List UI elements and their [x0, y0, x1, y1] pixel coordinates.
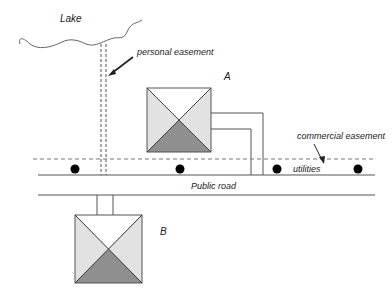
house-a [147, 88, 211, 152]
house-a-utility-connection [211, 113, 263, 175]
commercial-easement-label: commercial easement [297, 131, 386, 141]
public-road-label: Public road [191, 181, 237, 191]
lake-shoreline [20, 20, 142, 48]
lake-label: Lake [60, 13, 82, 24]
house-b-label: B [160, 226, 167, 237]
personal-easement-path [101, 44, 106, 175]
property-easement-diagram: Lake personal easement A commercial ease… [0, 0, 392, 298]
house-b [75, 215, 142, 283]
utilities-label: utilities [293, 164, 321, 174]
house-a-label: A [223, 71, 231, 82]
personal-easement-label: personal easement [136, 47, 214, 57]
personal-easement-arrow [108, 57, 133, 76]
house-b-driveway [97, 195, 113, 215]
commercial-easement-arrow [314, 144, 325, 164]
